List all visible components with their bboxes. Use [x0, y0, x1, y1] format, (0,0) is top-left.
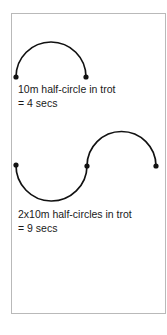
- caption-double-half-circle: 2x10m half-circles in trot = 9 secs: [18, 207, 132, 235]
- caption-single-half-circle: 10m half-circle in trot = 4 secs: [18, 82, 115, 110]
- single-half-circle-figure: [13, 42, 88, 80]
- serpentine-middle-marker: [84, 163, 89, 168]
- diagram-root: 10m half-circle in trot = 4 secs 2x10m h…: [0, 0, 167, 335]
- half-circle-arc-up: [16, 42, 86, 77]
- figure-layer: [0, 0, 167, 335]
- serpentine-end-marker: [153, 163, 158, 168]
- caption-single-line-2: = 4 secs: [18, 96, 115, 110]
- arc-end-marker: [83, 74, 88, 79]
- caption-double-line-1: 2x10m half-circles in trot: [18, 208, 132, 220]
- double-half-circle-figure: [13, 132, 158, 201]
- half-circle-arc-down-left: [16, 165, 87, 201]
- serpentine-start-marker: [13, 162, 18, 167]
- caption-single-line-1: 10m half-circle in trot: [18, 83, 115, 95]
- caption-double-line-2: = 9 secs: [18, 221, 132, 235]
- half-circle-arc-up-right: [87, 132, 156, 166]
- arc-start-marker: [13, 74, 18, 79]
